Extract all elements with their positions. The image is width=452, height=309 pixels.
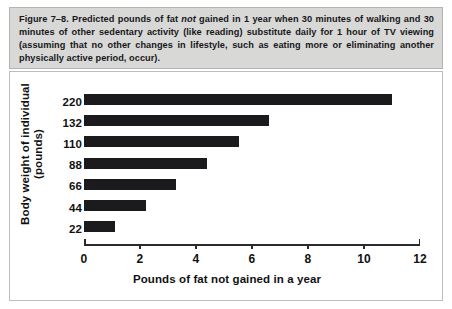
plot-wrapper: Body weight of individual (pounds) 22013… (10, 72, 442, 300)
bar (84, 200, 146, 211)
y-axis-tick-label: 66 (46, 180, 82, 192)
y-axis-tick-label: 132 (46, 117, 82, 129)
x-axis-tick-label: 12 (405, 252, 435, 266)
bar (84, 158, 207, 169)
x-axis-right-cap (419, 239, 421, 245)
y-axis-tick-label: 88 (46, 159, 82, 171)
bar (84, 179, 176, 190)
figure-caption-text: Figure 7–8. Predicted pounds of fat not … (19, 13, 434, 65)
x-axis-tick-label: 2 (125, 252, 155, 266)
x-axis-tick-label: 4 (181, 252, 211, 266)
chart-panel: Body weight of individual (pounds) 22013… (9, 71, 443, 301)
y-axis-tick-label: 44 (46, 202, 82, 214)
bar (84, 136, 239, 147)
figure-caption-panel: Figure 7–8. Predicted pounds of fat not … (9, 7, 443, 69)
bar (84, 94, 392, 105)
x-axis-tick-label: 10 (349, 252, 379, 266)
caption-part-1: Predicted pounds of fat (69, 14, 182, 24)
bar (84, 115, 269, 126)
x-axis-tick (195, 244, 197, 249)
y-axis-tick-label: 22 (46, 223, 82, 235)
bar (84, 221, 115, 232)
x-axis-tick-label: 0 (69, 252, 99, 266)
figure-number-label: Figure 7–8. (19, 14, 69, 24)
x-axis-tick (251, 244, 253, 249)
figure-container: Figure 7–8. Predicted pounds of fat not … (9, 7, 443, 301)
x-axis-tick (307, 244, 309, 249)
caption-emphasis-not: not (181, 14, 195, 24)
y-axis-tick-label: 110 (46, 138, 82, 150)
x-axis-tick-label: 6 (237, 252, 267, 266)
plot-area (84, 94, 420, 244)
x-axis-tick (363, 244, 365, 249)
x-axis-title: Pounds of fat not gained in a year (10, 273, 444, 285)
y-axis-tick-labels: 22013211088664422 (46, 96, 82, 242)
x-axis-tick-label: 8 (293, 252, 323, 266)
y-axis-tick-label: 220 (46, 96, 82, 108)
y-axis-title: Body weight of individual (pounds) (18, 74, 46, 234)
x-axis-tick (139, 244, 141, 249)
